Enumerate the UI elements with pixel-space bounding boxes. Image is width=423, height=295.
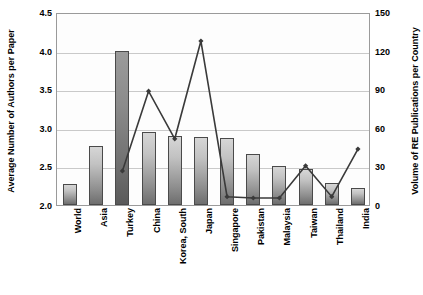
x-axis-category-label: Thailand <box>335 208 345 245</box>
x-axis-category-label: Asia <box>99 208 109 227</box>
y-axis-left-tick-label: 2.0 <box>18 202 52 211</box>
chart-container: Average Number of Authors per Paper Volu… <box>0 0 423 295</box>
y-axis-right-title: Volume of RE Publications per Country <box>410 21 420 201</box>
y-axis-left-tick-label: 4.5 <box>18 9 52 18</box>
y-axis-left-title: Average Number of Authors per Paper <box>6 21 16 201</box>
y-axis-right-tick-label: 120 <box>375 48 390 57</box>
x-axis-category-label: Turkey <box>125 208 135 237</box>
x-axis-category-label: Taiwan <box>309 208 319 238</box>
x-axis-category-label: Singapore <box>230 208 240 252</box>
y-axis-right-tick-label: 0 <box>375 202 380 211</box>
x-axis-category-label: Korea, South <box>178 208 188 264</box>
y-axis-left-tick-label: 3.5 <box>18 86 52 95</box>
y-axis-right-tick-label: 60 <box>375 125 385 134</box>
line-marker <box>198 38 203 43</box>
y-axis-right-tick-label: 30 <box>375 163 385 172</box>
y-axis-left-tick-label: 3.0 <box>18 125 52 134</box>
x-axis-category-label: China <box>152 208 162 233</box>
y-axis-left-tick-label: 4.0 <box>18 48 52 57</box>
y-axis-right-tick-label: 150 <box>375 9 390 18</box>
x-axis-category-label: Pakistan <box>256 208 266 245</box>
y-axis-right-tick-label: 90 <box>375 86 385 95</box>
line-marker <box>120 168 125 173</box>
y-axis-left-tick-label: 2.5 <box>18 163 52 172</box>
line-path <box>122 41 358 198</box>
y-axis-right-ticks: 0306090120150 <box>375 0 409 295</box>
line-marker <box>224 194 229 199</box>
x-axis-category-label: Malaysia <box>282 208 292 246</box>
plot-area <box>56 13 370 206</box>
x-axis-category-labels: WorldAsiaTurkeyChinaKorea, SouthJapanSin… <box>56 208 370 294</box>
x-axis-category-label: World <box>73 208 83 233</box>
x-axis-category-label: Japan <box>204 208 214 234</box>
line-series <box>57 14 370 206</box>
y-axis-left-ticks: 2.02.53.03.54.04.5 <box>18 0 52 295</box>
x-axis-category-label: India <box>361 208 371 229</box>
line-marker <box>251 195 256 200</box>
